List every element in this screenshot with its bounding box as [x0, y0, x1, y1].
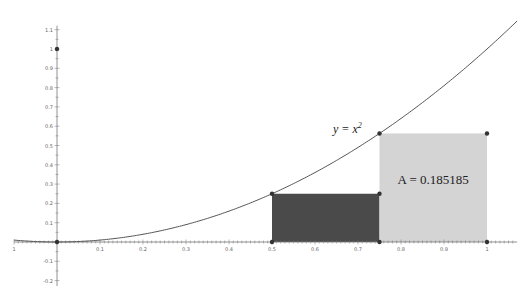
y-tick-label: 1	[50, 46, 53, 52]
x-tick-label: 0.3	[182, 246, 190, 252]
riemann-rectangles	[272, 133, 487, 242]
y-tick-label: 0.8	[45, 85, 53, 91]
x-tick-label: 0.4	[225, 246, 233, 252]
function-label: y = x2	[332, 121, 362, 136]
point-marker	[377, 192, 381, 196]
x-tick-label: 1	[12, 246, 15, 252]
function-label-base: y = x	[332, 122, 358, 136]
y-tick-label: 0.3	[45, 181, 53, 187]
point-marker	[377, 240, 381, 244]
y-tick-label: 0.2	[45, 200, 53, 206]
right-rectangle	[380, 133, 488, 242]
x-tick-label: 0.2	[139, 246, 147, 252]
function-label-exponent: 2	[358, 121, 362, 130]
x-tick-label: 0.6	[311, 246, 319, 252]
y-tick-label: -0.2	[43, 278, 53, 284]
y-tick-label: 0.9	[45, 65, 53, 71]
y-tick-label: 0.1	[45, 220, 53, 226]
point-marker	[485, 240, 489, 244]
point-marker	[270, 192, 274, 196]
x-tick-label: 0.1	[96, 246, 104, 252]
point-marker	[55, 240, 59, 244]
y-tick-label: 1.1	[45, 27, 53, 33]
x-tick-label: 0.9	[440, 246, 448, 252]
left-rectangle	[272, 194, 380, 242]
x-tick-label: 1	[485, 246, 488, 252]
y-tick-label: 0.7	[45, 104, 53, 110]
area-annotation: A = 0.185185	[398, 172, 469, 187]
point-marker	[270, 240, 274, 244]
x-tick-label: 0.7	[354, 246, 362, 252]
x-tick-label: 0.8	[397, 246, 405, 252]
y-tick-label: 0.4	[45, 162, 53, 168]
y-tick-label: 0.5	[45, 143, 53, 149]
riemann-sum-chart: 10.10.20.30.40.50.60.70.80.911.110.90.80…	[0, 0, 532, 286]
point-marker	[55, 47, 59, 51]
point-marker	[485, 131, 489, 135]
point-marker	[377, 131, 381, 135]
y-tick-label: -0.1	[43, 258, 53, 264]
x-tick-label: 0.5	[268, 246, 276, 252]
y-tick-label: 0.6	[45, 123, 53, 129]
